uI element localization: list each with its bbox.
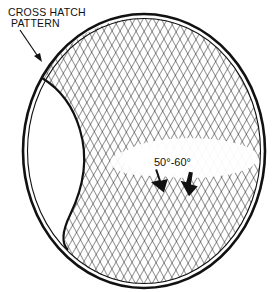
cylinder-bore-diagram: [0, 0, 277, 292]
cross-hatch-label: CROSS HATCH PATTERN: [8, 7, 86, 29]
leader-arrow: [20, 30, 42, 62]
angle-label: 50°-60°: [154, 156, 191, 168]
callout-line-2: PATTERN: [8, 18, 86, 29]
cross-hatch-pattern: [0, 0, 277, 292]
